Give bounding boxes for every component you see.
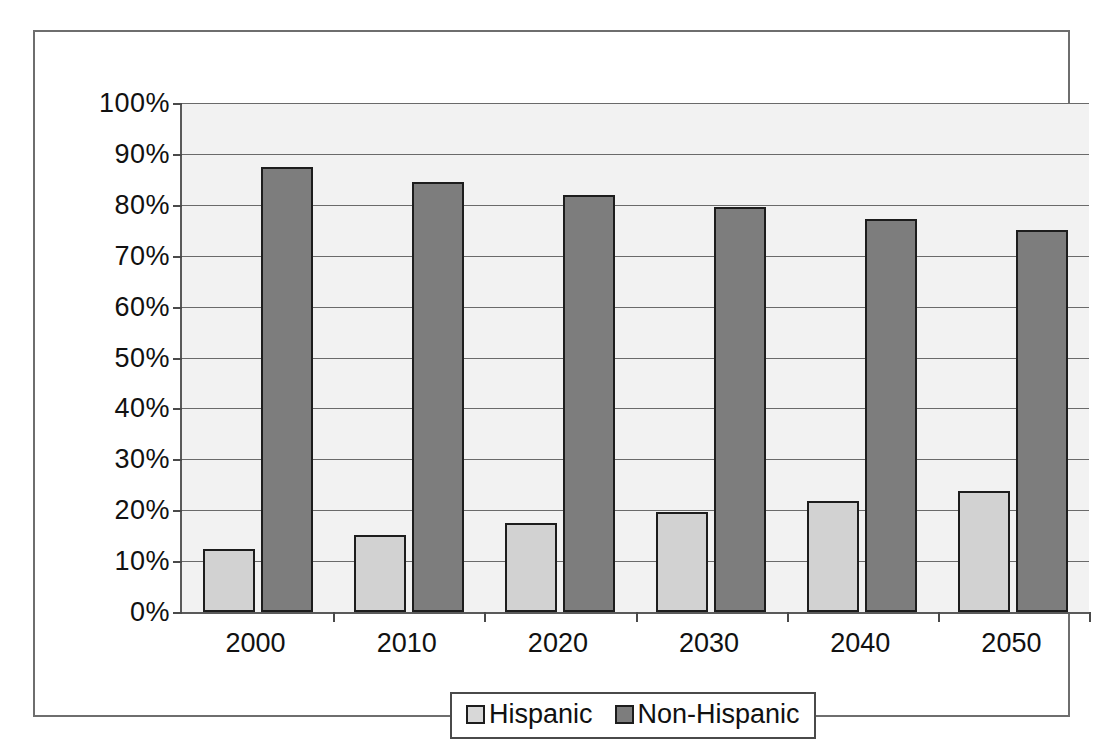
bar-non-hispanic-2050 bbox=[1016, 230, 1068, 612]
x-axis-tick-label-2010: 2010 bbox=[377, 628, 437, 659]
x-axis-tick bbox=[1089, 612, 1091, 622]
y-axis-tick bbox=[173, 459, 182, 461]
y-axis-tick bbox=[173, 612, 182, 614]
bar-group-2000 bbox=[182, 103, 333, 612]
y-axis-tick-label: 30% bbox=[114, 444, 170, 475]
bar-hispanic-2040 bbox=[807, 501, 859, 612]
y-axis-label-group: 0%10%20%30%40%50%60%70%80%90%100% bbox=[90, 103, 170, 612]
x-axis-tick-label-2020: 2020 bbox=[528, 628, 588, 659]
bar-hispanic-2000 bbox=[203, 549, 255, 612]
bar-non-hispanic-2030 bbox=[714, 207, 766, 612]
y-axis-tick-label: 60% bbox=[114, 291, 170, 322]
x-axis-tick bbox=[938, 612, 940, 622]
y-axis-tick-label: 90% bbox=[114, 138, 170, 169]
chart-legend: HispanicNon-Hispanic bbox=[450, 692, 816, 739]
y-axis-tick bbox=[173, 510, 182, 512]
x-axis-label-group: 200020102020203020402050 bbox=[180, 628, 1087, 668]
x-axis-tick-label-2000: 2000 bbox=[226, 628, 286, 659]
x-axis-tick-label-2040: 2040 bbox=[830, 628, 890, 659]
y-axis-tick bbox=[173, 256, 182, 258]
x-axis-tick bbox=[333, 612, 335, 622]
x-axis-tick bbox=[787, 612, 789, 622]
y-axis-tick bbox=[173, 154, 182, 156]
y-axis-tick bbox=[173, 561, 182, 563]
legend-item-non-hispanic: Non-Hispanic bbox=[615, 699, 800, 730]
x-axis-tick-label-2050: 2050 bbox=[981, 628, 1041, 659]
x-axis-tick bbox=[484, 612, 486, 622]
y-axis-tick-label: 100% bbox=[99, 88, 170, 119]
bar-non-hispanic-2040 bbox=[865, 219, 917, 612]
bar-hispanic-2050 bbox=[958, 491, 1010, 612]
y-axis-tick-label: 80% bbox=[114, 189, 170, 220]
bar-hispanic-2020 bbox=[505, 523, 557, 612]
chart-outer-frame: 0%10%20%30%40%50%60%70%80%90%100% 200020… bbox=[33, 30, 1070, 717]
bar-group-2020 bbox=[484, 103, 635, 612]
legend-item-hispanic: Hispanic bbox=[466, 699, 593, 730]
y-axis-tick-label: 70% bbox=[114, 240, 170, 271]
y-axis-tick-label: 0% bbox=[130, 597, 170, 628]
bar-group-2030 bbox=[636, 103, 787, 612]
legend-label: Non-Hispanic bbox=[638, 699, 800, 730]
plot-area bbox=[180, 103, 1089, 614]
legend-label: Hispanic bbox=[489, 699, 593, 730]
bar-group-2040 bbox=[787, 103, 938, 612]
y-axis-tick bbox=[173, 307, 182, 309]
legend-swatch-icon bbox=[615, 705, 634, 724]
y-axis-tick bbox=[173, 205, 182, 207]
bar-group-2050 bbox=[938, 103, 1089, 612]
bar-non-hispanic-2000 bbox=[261, 167, 313, 612]
y-axis-tick bbox=[173, 103, 182, 105]
y-axis-tick bbox=[173, 358, 182, 360]
y-axis-tick bbox=[173, 408, 182, 410]
legend-swatch-icon bbox=[466, 705, 485, 724]
bar-non-hispanic-2010 bbox=[412, 182, 464, 612]
bar-group-2010 bbox=[333, 103, 484, 612]
y-axis-tick-label: 20% bbox=[114, 495, 170, 526]
y-axis-tick-label: 40% bbox=[114, 393, 170, 424]
bar-non-hispanic-2020 bbox=[563, 195, 615, 612]
y-axis-tick-label: 10% bbox=[114, 546, 170, 577]
x-axis-tick bbox=[636, 612, 638, 622]
x-axis-tick-label-2030: 2030 bbox=[679, 628, 739, 659]
y-axis-tick-label: 50% bbox=[114, 342, 170, 373]
bar-hispanic-2030 bbox=[656, 512, 708, 612]
bar-hispanic-2010 bbox=[354, 535, 406, 612]
